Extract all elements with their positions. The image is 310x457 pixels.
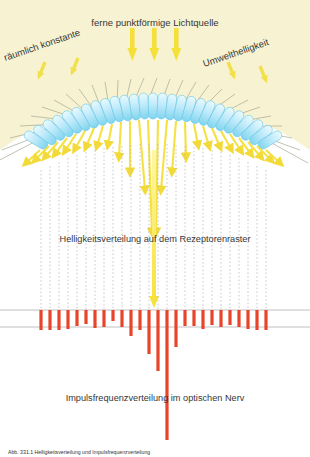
impulse-bar bbox=[48, 310, 51, 330]
label-receptor-distribution: Helligkeitsverteilung auf dem Rezeptoren… bbox=[0, 234, 310, 244]
impulse-bar bbox=[75, 310, 78, 326]
impulse-bar bbox=[138, 310, 141, 330]
impulse-frequency-bars bbox=[39, 310, 267, 440]
impulse-bar bbox=[57, 310, 60, 330]
impulse-bar bbox=[156, 310, 159, 371]
impulse-bar bbox=[228, 310, 231, 325]
impulse-bar bbox=[246, 310, 249, 329]
impulse-bar bbox=[66, 310, 69, 329]
impulse-bar bbox=[102, 310, 105, 327]
impulse-bar bbox=[120, 310, 123, 327]
label-light-source: ferne punktförmige Lichtquelle bbox=[0, 17, 310, 28]
impulse-bar bbox=[165, 310, 168, 440]
impulse-bar bbox=[210, 310, 213, 325]
impulse-bar bbox=[237, 310, 240, 327]
impulse-bar bbox=[183, 310, 186, 326]
impulse-bar bbox=[255, 310, 258, 330]
figure-lateral-inhibition: ferne punktförmige Lichtquelle räumlich … bbox=[0, 0, 310, 457]
impulse-bar bbox=[219, 310, 222, 327]
impulse-bar bbox=[174, 310, 177, 347]
impulse-bar bbox=[93, 310, 96, 328]
impulse-bar bbox=[201, 310, 204, 329]
impulse-bar bbox=[39, 310, 42, 330]
impulse-bar bbox=[192, 310, 195, 326]
impulse-bar bbox=[147, 310, 150, 354]
impulse-bar bbox=[129, 310, 132, 336]
impulse-bar bbox=[264, 310, 267, 330]
diagram-canvas bbox=[0, 0, 310, 457]
label-nerve-distribution: Impulsfrequenzverteilung im optischen Ne… bbox=[0, 393, 310, 403]
figure-caption: Abb. 331.1 Helligkeitsverteilung und Imp… bbox=[8, 449, 308, 456]
impulse-bar bbox=[84, 310, 87, 324]
impulse-bar bbox=[111, 310, 114, 321]
